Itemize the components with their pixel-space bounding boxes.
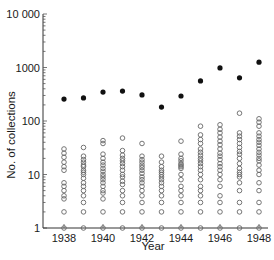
open-data-point xyxy=(81,210,86,215)
open-data-point xyxy=(159,193,164,198)
open-data-point xyxy=(81,193,86,198)
open-data-point xyxy=(140,193,145,198)
x-tick-label: 1938 xyxy=(52,232,76,244)
open-data-point xyxy=(179,210,184,215)
open-data-point xyxy=(179,172,184,177)
open-data-point xyxy=(120,210,125,215)
open-data-point xyxy=(218,200,223,205)
scatter-chart: 110100100010 000 19381940194219441946194… xyxy=(0,0,274,260)
x-tick-label: 1948 xyxy=(247,232,271,244)
open-data-point xyxy=(120,200,125,205)
y-tick-label: 1000 xyxy=(16,62,40,74)
open-data-point xyxy=(237,200,242,205)
open-data-point xyxy=(159,210,164,215)
y-axis-label: No. of collections xyxy=(5,91,17,179)
open-data-point xyxy=(62,160,67,165)
open-data-point xyxy=(237,210,242,215)
open-data-point xyxy=(159,160,164,165)
filled-circle-series xyxy=(61,60,261,110)
open-data-point xyxy=(120,148,125,153)
x-axis-label: Year xyxy=(141,240,164,252)
y-tick-label: 10 xyxy=(28,169,40,181)
open-data-point xyxy=(237,161,242,166)
open-data-point xyxy=(237,111,242,116)
filled-data-point xyxy=(100,89,105,94)
open-data-point xyxy=(101,141,106,146)
filled-data-point xyxy=(217,65,222,70)
open-data-point xyxy=(62,197,67,202)
open-data-point xyxy=(257,180,262,185)
open-data-point xyxy=(257,188,262,193)
open-data-point xyxy=(218,122,223,127)
x-tick-label: 1946 xyxy=(208,232,232,244)
filled-data-point xyxy=(61,96,66,101)
open-data-point xyxy=(120,182,125,187)
open-data-point xyxy=(140,210,145,215)
open-data-point xyxy=(198,200,203,205)
filled-data-point xyxy=(81,95,86,100)
open-data-point xyxy=(159,154,164,159)
open-data-point xyxy=(198,210,203,215)
open-data-point xyxy=(120,136,125,141)
open-data-point xyxy=(218,210,223,215)
filled-data-point xyxy=(178,93,183,98)
open-data-point xyxy=(179,139,184,144)
open-data-point xyxy=(120,193,125,198)
open-data-point xyxy=(159,200,164,205)
open-data-point xyxy=(237,180,242,185)
y-tick-label: 10 000 xyxy=(6,8,40,20)
open-data-point xyxy=(237,188,242,193)
open-data-point xyxy=(198,133,203,138)
open-data-point xyxy=(140,141,145,146)
open-data-point xyxy=(81,200,86,205)
open-data-point xyxy=(218,193,223,198)
open-data-point xyxy=(218,177,223,182)
filled-data-point xyxy=(120,89,125,94)
open-data-point xyxy=(257,200,262,205)
open-data-point xyxy=(257,210,262,215)
open-data-point xyxy=(179,193,184,198)
open-circle-series xyxy=(62,111,262,230)
filled-data-point xyxy=(159,104,164,109)
filled-data-point xyxy=(198,78,203,83)
x-tick-label: 1944 xyxy=(169,232,193,244)
open-data-point xyxy=(140,200,145,205)
open-data-point xyxy=(62,210,67,215)
open-data-point xyxy=(198,193,203,198)
y-tick-label: 100 xyxy=(22,115,40,127)
open-data-point xyxy=(179,177,184,182)
open-data-point xyxy=(198,177,203,182)
filled-data-point xyxy=(139,92,144,97)
open-data-point xyxy=(198,124,203,129)
open-data-point xyxy=(179,200,184,205)
open-data-point xyxy=(120,188,125,193)
x-tick-label: 1940 xyxy=(91,232,115,244)
filled-data-point xyxy=(256,60,261,65)
open-data-point xyxy=(81,145,86,150)
y-tick-label: 1 xyxy=(34,222,40,234)
open-data-point xyxy=(101,197,106,202)
open-data-point xyxy=(101,210,106,215)
open-data-point xyxy=(218,184,223,189)
filled-data-point xyxy=(237,75,242,80)
